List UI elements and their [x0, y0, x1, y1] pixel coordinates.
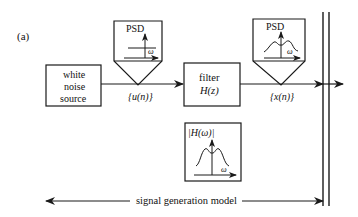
- psd-probe-1-omega: ω: [148, 48, 154, 56]
- diagram-lines: [0, 0, 358, 217]
- span-label: signal generation model: [136, 196, 237, 207]
- psd-probe-1-title: PSD: [126, 24, 144, 34]
- filter-label: filter: [199, 73, 219, 84]
- source-label-line2: noise: [64, 82, 85, 92]
- source-label-line1: white: [63, 70, 85, 80]
- panel-label: (a): [17, 31, 29, 42]
- signal-u-label: {u(n)}: [128, 92, 153, 102]
- diagram: (a) white noise source filter H(z) {u(n)…: [0, 0, 358, 217]
- source-label-line3: source: [60, 94, 86, 104]
- psd-probe-2-title: PSD: [266, 22, 284, 32]
- psd-probe-2-omega: ω: [287, 48, 293, 56]
- signal-x-label: {x(n)}: [270, 92, 294, 102]
- frequency-response-title: |H(ω)|: [188, 128, 214, 138]
- filter-transfer-function: H(z): [200, 86, 219, 97]
- frequency-response-omega: ω: [221, 166, 227, 174]
